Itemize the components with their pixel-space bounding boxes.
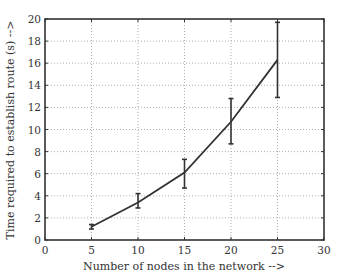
x-tick-label: 0: [42, 244, 49, 256]
y-tick-label: 12: [28, 101, 41, 113]
x-tick-label: 10: [131, 244, 144, 256]
y-tick-label: 4: [34, 190, 41, 202]
y-tick-label: 16: [28, 57, 42, 69]
x-tick-label: 25: [271, 244, 284, 256]
grid-lines: [45, 19, 324, 240]
y-tick-label: 8: [34, 146, 41, 158]
y-tick-label: 20: [28, 13, 41, 25]
y-tick-label: 14: [28, 79, 42, 91]
y-tick-labels: 02468101214161820: [28, 13, 42, 246]
x-tick-label: 30: [317, 244, 330, 256]
y-tick-label: 6: [34, 168, 41, 180]
x-tick-label: 5: [88, 244, 95, 256]
chart: 051015202530 02468101214161820 Number of…: [0, 0, 344, 279]
x-axis-label: Number of nodes in the network -->: [83, 260, 285, 273]
y-tick-label: 2: [34, 212, 41, 224]
y-tick-label: 0: [34, 234, 41, 246]
x-tick-label: 20: [224, 244, 237, 256]
x-tick-labels: 051015202530: [42, 244, 331, 256]
y-tick-label: 18: [28, 35, 41, 47]
data-series: [89, 22, 280, 229]
y-tick-label: 10: [28, 124, 41, 136]
x-tick-label: 15: [178, 244, 191, 256]
y-axis-label: Time required to establish route (s) -->: [4, 21, 17, 240]
